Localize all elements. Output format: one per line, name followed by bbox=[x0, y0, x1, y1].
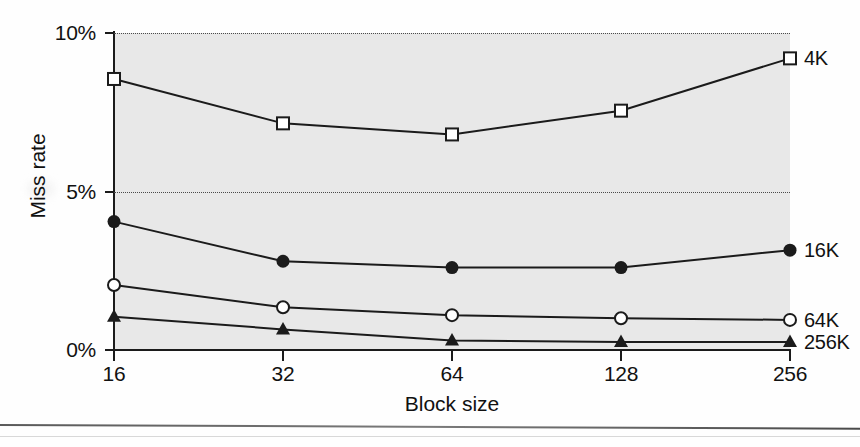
page-bottom-rule bbox=[0, 424, 860, 430]
y-tick-mark bbox=[105, 191, 114, 193]
x-tick-mark bbox=[451, 350, 453, 361]
x-tick-mark bbox=[282, 350, 284, 361]
gridline-5% bbox=[114, 192, 790, 193]
x-axis-title: Block size bbox=[405, 392, 500, 416]
x-tick-label: 32 bbox=[272, 362, 295, 386]
series-label-256K: 256K bbox=[804, 331, 850, 354]
x-tick-mark bbox=[113, 350, 115, 361]
figure-chart-miss-rate-vs-block-size: 0%5%10% 163264128256 Miss rate Block siz… bbox=[0, 0, 860, 447]
y-tick-label: 10% bbox=[55, 21, 96, 45]
series-label-4K: 4K bbox=[804, 47, 828, 70]
gridline-10% bbox=[114, 33, 790, 34]
series-label-64K: 64K bbox=[804, 308, 839, 331]
y-tick-label: 0% bbox=[66, 338, 96, 362]
series-label-16K: 16K bbox=[804, 239, 839, 262]
y-tick-mark bbox=[105, 32, 114, 34]
y-axis-title: Miss rate bbox=[26, 76, 50, 276]
x-tick-label: 256 bbox=[773, 362, 807, 386]
page-bottom-rule-shadow bbox=[0, 436, 860, 437]
y-tick-label: 5% bbox=[66, 180, 96, 204]
x-tick-label: 64 bbox=[441, 362, 464, 386]
x-tick-mark bbox=[789, 350, 791, 361]
x-tick-mark bbox=[620, 350, 622, 361]
x-tick-label: 128 bbox=[604, 362, 638, 386]
x-tick-label: 16 bbox=[103, 362, 126, 386]
